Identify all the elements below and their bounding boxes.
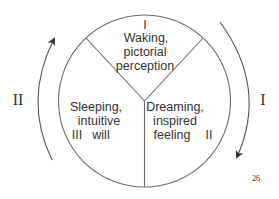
- segment-line: will: [91, 128, 109, 142]
- segment-line: Sleeping,: [70, 100, 122, 114]
- segment-line: Waking,: [124, 31, 169, 45]
- segment-line: Dreaming,: [146, 100, 204, 114]
- segment-line: inspired: [153, 114, 197, 128]
- segment-numeral: II: [206, 128, 213, 142]
- segment-dreaming: Dreaming, inspired feeling II: [146, 100, 212, 142]
- outer-label-right: I: [260, 91, 265, 108]
- segment-sleeping: Sleeping, intuitive III will: [70, 100, 122, 142]
- segment-numeral: III: [72, 128, 82, 142]
- segment-waking: I Waking, pictorial perception: [116, 18, 174, 73]
- consciousness-cycle-diagram: I Waking, pictorial perception Dreaming,…: [0, 0, 279, 199]
- segment-line: perception: [116, 59, 174, 73]
- segment-line: intuitive: [78, 114, 120, 128]
- page-number: 26: [252, 174, 260, 183]
- arrow-left-upward-icon: [38, 39, 54, 160]
- outer-label-left: II: [13, 91, 24, 108]
- segment-numeral: I: [143, 18, 146, 32]
- segment-line: feeling: [154, 128, 191, 142]
- segment-line: pictorial: [123, 45, 166, 59]
- arrow-right-downward-icon: [220, 22, 249, 157]
